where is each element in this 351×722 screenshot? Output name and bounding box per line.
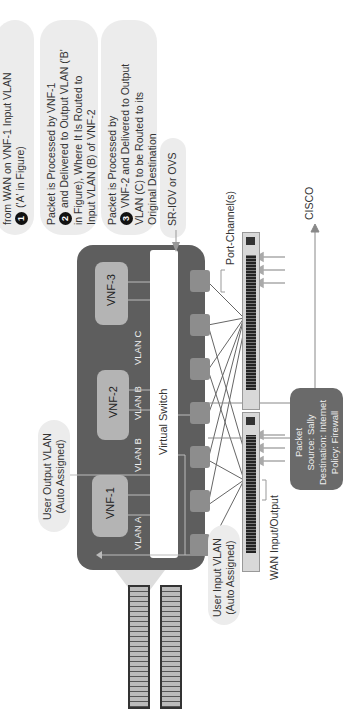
packet-policy: Policy: Firewall: [329, 400, 341, 485]
user-output-vlan-line-2: (Auto Assigned): [54, 433, 67, 520]
switch-ports: [246, 435, 256, 553]
physical-switch-bottom: [242, 412, 260, 572]
input-vlan-arrow-icon: [96, 551, 102, 559]
packet-info-box: Packet Source: Sally Destination: Intern…: [290, 388, 343, 490]
user-input-vlan-callout: User Input VLAN (Auto Assigned): [208, 525, 240, 625]
switch-logo-icon: [246, 237, 255, 245]
server-rack-2: [160, 585, 182, 709]
user-input-vlan-line-1: User Input VLAN: [211, 538, 224, 617]
nic-port-6: [190, 490, 210, 512]
packet-title: Packet: [293, 400, 305, 485]
nic-port-3: [190, 358, 210, 380]
physical-switch-top: [242, 232, 260, 410]
user-output-vlan-line-1: User Output VLAN: [41, 433, 54, 520]
nic-port-7: [190, 534, 210, 556]
wan-io-label: WAN Input/Output: [268, 495, 280, 580]
cisco-label: CISCO: [303, 187, 315, 220]
nic-port-2: [190, 314, 210, 336]
wan-arrows-icon: [256, 253, 285, 465]
nic-port-4: [190, 402, 210, 424]
switch-logo-icon: [246, 417, 255, 425]
switch-ports: [246, 255, 256, 390]
nic-port-1: [190, 270, 210, 292]
packet-destination: Destination: Internet: [317, 400, 329, 485]
packet-source: Source: Sally: [305, 400, 317, 485]
port-channel-label: Port-Channel(s): [224, 191, 236, 265]
nic-port-5: [190, 446, 210, 468]
user-input-vlan-line-2: (Auto Assigned): [224, 538, 237, 617]
server-rack-1: [128, 585, 150, 709]
user-output-vlan-callout: User Output VLAN (Auto Assigned): [38, 420, 70, 532]
